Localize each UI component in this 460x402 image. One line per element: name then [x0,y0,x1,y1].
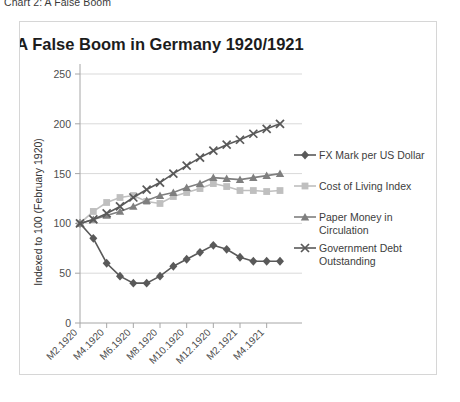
y-tick-label: 50 [59,267,71,279]
legend-label: Cost of Living Index [319,180,412,192]
legend-item-2[interactable]: Paper Money inCirculation [294,211,393,236]
chart-title: A False Boom in Germany 1920/1921 [20,35,304,53]
figure-caption: Chart 2: A False Boom [4,0,111,8]
x-axis: M2.1920M4.1920M6.1920M8.1920M10.1920M12.… [44,323,302,366]
chart-legend[interactable]: FX Mark per US DollarCost of Living Inde… [294,149,425,267]
false-boom-line-chart: A False Boom in Germany 1920/1921 050100… [20,22,436,374]
legend-item-1[interactable]: Cost of Living Index [294,180,412,192]
legend-label: FX Mark per US Dollar [319,149,425,161]
y-tick-label: 250 [53,68,71,80]
y-tick-label: 200 [53,118,71,130]
y-axis-title: Indexed to 100 (February 1920) [32,138,44,286]
legend-item-3[interactable]: Government DebtOutstanding [294,242,402,267]
legend-label: Paper Money in [319,211,393,223]
series-1 [77,180,284,227]
y-tick-label: 100 [53,217,71,229]
legend-label: Government Debt [319,242,402,254]
data-series-group [76,120,284,288]
chart-container: A False Boom in Germany 1920/1921 050100… [19,21,437,375]
y-axis: 050100150200250 [53,64,80,329]
grid-lines [80,74,302,273]
y-tick-label: 150 [53,168,71,180]
legend-item-0[interactable]: FX Mark per US Dollar [294,149,425,161]
legend-label: Outstanding [319,255,376,267]
legend-label: Circulation [319,224,369,236]
series-2 [76,170,284,227]
series-0 [76,219,284,288]
